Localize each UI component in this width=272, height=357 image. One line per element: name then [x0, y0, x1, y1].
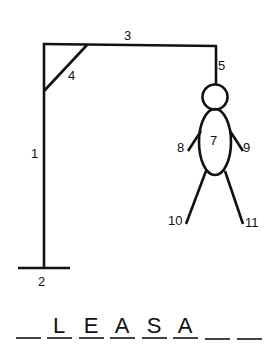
label-pole: 1 [31, 146, 38, 161]
label-left-leg: 10 [168, 213, 182, 228]
right-leg [225, 171, 243, 224]
left-leg [186, 171, 206, 224]
hangman-drawing: 1 2 3 4 5 7 8 9 10 11 L E A S A [0, 0, 272, 357]
label-brace: 4 [68, 68, 75, 83]
label-beam: 3 [124, 28, 131, 43]
letter-4: A [115, 313, 130, 338]
head [203, 85, 228, 110]
label-rope: 5 [218, 58, 225, 73]
letter-6: A [178, 313, 193, 338]
label-right-arm: 9 [243, 140, 250, 155]
letter-5: S [147, 313, 162, 338]
label-left-arm: 8 [177, 140, 184, 155]
label-right-leg: 11 [245, 215, 259, 230]
gallows-brace [44, 45, 87, 91]
label-body: 7 [210, 133, 217, 148]
label-base: 2 [38, 274, 45, 289]
letter-2: L [53, 313, 65, 338]
letter-3: E [84, 313, 99, 338]
gallows-beam [43, 44, 217, 46]
